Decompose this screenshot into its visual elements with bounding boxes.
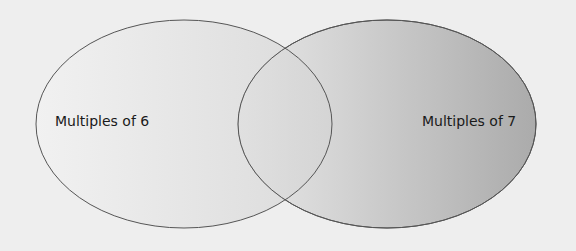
label-multiples-of-7: Multiples of 7 bbox=[422, 113, 516, 129]
label-multiples-of-6: Multiples of 6 bbox=[55, 113, 149, 129]
